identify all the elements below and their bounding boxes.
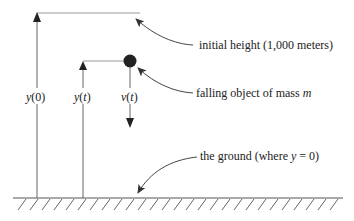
falling-object-diagram [0, 0, 354, 221]
falling-object-label: falling object of mass m [196, 87, 311, 99]
initial-height-label: initial height (1,000 meters) [199, 39, 333, 51]
initial-height-pointer-arrow [136, 19, 193, 45]
ground-hatching [18, 199, 338, 210]
mass-variable: m [303, 86, 312, 100]
ground-text: the ground (where [200, 149, 291, 163]
ground-pointer-arrow [138, 157, 197, 193]
y0-argument: (0) [31, 90, 45, 104]
falling-object-text: falling object of mass [196, 86, 303, 100]
y0-arrow [33, 12, 41, 198]
falling-object-ball [124, 55, 137, 68]
vt-paren-close: ) [134, 90, 138, 104]
yt-paren-close: ) [87, 90, 91, 104]
falling-object-pointer-arrow [138, 68, 193, 93]
ground-label: the ground (where y = 0) [200, 150, 319, 162]
vt-label: v(t) [121, 91, 138, 103]
yt-label: y(t) [74, 91, 91, 103]
initial-height-text: initial height (1,000 meters) [199, 38, 333, 52]
ground-equals-zero: = 0) [296, 149, 319, 163]
yt-arrow [79, 61, 87, 198]
y0-label: y(0) [26, 91, 45, 103]
